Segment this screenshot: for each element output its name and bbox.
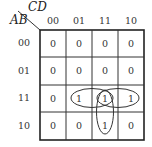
row-header: 10 [14, 121, 34, 131]
kmap-cell: 1 [92, 112, 118, 139]
kmap-cell: 1 [66, 85, 92, 112]
kmap-cell: 1 [118, 85, 144, 112]
row-header: 01 [14, 66, 34, 76]
col-variables-label: CD [28, 1, 47, 13]
col-header: 11 [92, 16, 118, 26]
kmap-cell: 0 [66, 112, 92, 139]
kmap-cell: 0 [40, 112, 66, 139]
kmap-cell: 0 [66, 57, 92, 84]
kmap-cell: 1 [92, 85, 118, 112]
kmap-cell: 0 [40, 30, 66, 57]
kmap-cell: 0 [92, 30, 118, 57]
col-header: 10 [118, 16, 144, 26]
col-header: 00 [40, 16, 66, 26]
row-variables-label: AB [10, 14, 27, 26]
kmap-cell: 0 [92, 57, 118, 84]
kmap-cell: 0 [118, 30, 144, 57]
kmap-cell: 0 [40, 57, 66, 84]
karnaugh-map: CD AB 00 01 11 10 00 01 11 10 0 0 0 0 0 … [0, 0, 152, 147]
row-header: 00 [14, 38, 34, 48]
kmap-cell: 0 [40, 85, 66, 112]
kmap-cell: 0 [118, 57, 144, 84]
kmap-cell: 0 [118, 112, 144, 139]
kmap-cell: 0 [66, 30, 92, 57]
row-header: 11 [14, 93, 34, 103]
col-header: 01 [66, 16, 92, 26]
